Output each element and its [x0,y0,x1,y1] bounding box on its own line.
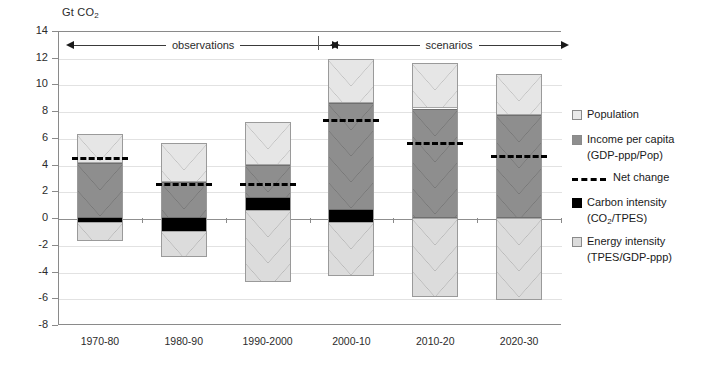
net-change-dash-icon [572,178,606,181]
gridline [59,246,562,247]
x-tick-mark [477,218,478,223]
x-tick-mark [142,218,143,223]
arrow-left-icon [330,41,338,49]
gridline [59,139,562,140]
y-tick-label: 14 [14,25,48,36]
bar-outline [328,59,374,275]
legend-label-population: Population [587,108,639,121]
gridline [59,273,562,274]
y-tick-label: 0 [14,212,48,223]
y-tick-mark [52,58,58,59]
x-tick-mark [393,218,394,223]
x-tick-mark [310,218,311,223]
co2-decomposition-chart: Gt CO2 14121086420-2-4-6-8 1970-801980-9… [0,0,709,367]
x-tick-label: 1970-80 [55,335,145,347]
y-tick-mark [52,84,58,85]
carbon-swatch-icon [572,198,582,208]
y-tick-mark [52,31,58,32]
gridline [59,85,562,86]
legend: Population Income per capita (GDP-ppp/Po… [572,108,709,264]
legend-label-income: Income per capita [587,133,674,146]
legend-sublabel-carbon: (CO2/TPES) [572,212,709,226]
y-tick-label: 8 [14,105,48,116]
legend-item-carbon: Carbon intensity [572,196,709,209]
y-tick-label: -8 [14,319,48,330]
annotation-scenarios-label: scenarios [426,39,473,51]
y-tick-mark [52,245,58,246]
x-tick-mark [226,218,227,223]
legend-item-net-change: Net change [572,171,709,184]
y-tick-label: -6 [14,292,48,303]
plot-area [58,31,561,325]
y-tick-label: 12 [14,52,48,63]
population-swatch-icon [572,110,582,120]
y-tick-mark [52,272,58,273]
arrow-left-icon [66,41,74,49]
legend-item-population: Population [572,108,709,121]
y-tick-label: -2 [14,239,48,250]
legend-label-energy: Energy intensity [587,235,665,248]
legend-item-energy: Energy intensity [572,235,709,248]
x-tick-label: 1980-90 [139,335,229,347]
x-tick-label: 1990-2000 [223,335,313,347]
x-tick-label: 2000-10 [306,335,396,347]
bar-outline [77,134,123,241]
gridline [59,112,562,113]
legend-label-carbon: Carbon intensity [587,196,667,209]
y-tick-label: 6 [14,132,48,143]
y-tick-mark [52,298,58,299]
legend-sublabel-energy: (TPES/GDP-ppp) [572,251,709,264]
net-change-marker [491,155,547,158]
bar-outline [412,63,458,297]
bar-outline [245,122,291,282]
y-tick-label: 10 [14,78,48,89]
bar-outline [496,74,542,300]
x-tick-label: 2010-20 [390,335,480,347]
y-tick-label: -4 [14,266,48,277]
net-change-marker [407,142,463,145]
y-tick-mark [52,325,58,326]
x-tick-label: 2020-30 [474,335,564,347]
net-change-marker [156,183,212,186]
y-tick-mark [52,165,58,166]
y-tick-mark [52,138,58,139]
income-swatch-icon [572,135,582,145]
annotation-observations: observations [66,38,340,52]
annotation-scenarios: scenarios [330,38,569,52]
gridline [59,299,562,300]
legend-label-net-change: Net change [613,171,669,184]
y-tick-mark [52,191,58,192]
bar-outline [161,143,207,257]
net-change-marker [240,183,296,186]
x-tick-mark [561,218,562,223]
legend-sublabel-income: (GDP-ppp/Pop) [572,149,709,162]
annotation-divider [318,36,319,50]
net-change-marker [72,157,128,160]
y-tick-mark [52,218,58,219]
gridline [59,166,562,167]
gridline [59,192,562,193]
gridline [59,59,562,60]
net-change-marker [323,119,379,122]
energy-swatch-icon [572,237,582,247]
legend-item-income: Income per capita [572,133,709,146]
y-tick-mark [52,111,58,112]
y-tick-label: 4 [14,159,48,170]
arrow-right-icon [561,41,569,49]
y-tick-label: 2 [14,185,48,196]
annotation-observations-label: observations [172,39,234,51]
y-axis-unit-label: Gt CO2 [62,6,99,18]
